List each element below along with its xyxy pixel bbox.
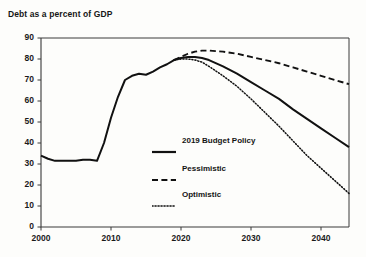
x-tick-2000: 2000 (19, 233, 63, 243)
y-tick-30: 30 (8, 158, 34, 168)
x-tick-2030: 2030 (229, 233, 273, 243)
debt-gdp-chart: Debt as a percent of GDP 010203040506070… (0, 0, 366, 257)
series-line-2019-budget-policy (41, 57, 349, 161)
legend-marker-solid (152, 140, 176, 143)
y-tick-80: 80 (8, 53, 34, 63)
y-tick-20: 20 (8, 179, 34, 189)
y-tick-70: 70 (8, 74, 34, 84)
y-tick-0: 0 (8, 221, 34, 231)
legend-marker-dashed (152, 168, 176, 171)
x-tick-2040: 2040 (299, 233, 343, 243)
legend-label-pessimistic: Pessimistic (182, 164, 226, 173)
series-line-optimistic (174, 59, 349, 193)
legend-marker-dotted (152, 194, 176, 197)
legend-label-optimistic: Optimistic (182, 190, 221, 199)
y-tick-60: 60 (8, 95, 34, 105)
plot-area (0, 0, 366, 257)
x-tick-2010: 2010 (89, 233, 133, 243)
y-tick-50: 50 (8, 116, 34, 126)
y-tick-10: 10 (8, 200, 34, 210)
series-line-pessimistic (174, 51, 349, 85)
legend-label-2019-budget-policy: 2019 Budget Policy (182, 136, 255, 145)
x-tick-2020: 2020 (159, 233, 203, 243)
y-tick-90: 90 (8, 32, 34, 42)
y-tick-40: 40 (8, 137, 34, 147)
axes (38, 38, 350, 231)
